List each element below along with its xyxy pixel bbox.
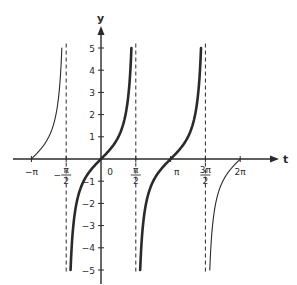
y-tick-label: 1 [89,132,95,142]
x-ticks: −π−π20π2π3π22π [25,156,246,186]
x-tick-label: 2π [235,167,247,177]
y-axis-arrow-icon [98,26,105,35]
x-tick-label-denominator: 2 [63,176,69,186]
y-tick-label: −4 [82,243,96,253]
x-tick-label-sign: − [53,170,61,180]
tangent-curve-branch [31,48,61,159]
x-tick-label-denominator: 2 [203,176,209,186]
y-tick-label: −3 [82,221,95,231]
y-tick-label: 3 [89,88,95,98]
tangent-function-chart: t y −5−4−3−2−112345 −π−π20π2π3π22π [0,0,297,285]
y-tick-label: −2 [82,199,95,209]
axes: t y [13,12,288,284]
x-axis-label: t [283,153,288,166]
x-tick-label-denominator: 2 [133,176,139,186]
y-axis-label: y [97,12,104,25]
y-tick-label: 4 [89,66,95,76]
x-tick-label: π [174,167,180,177]
x-tick-label-numerator: π [133,165,139,175]
x-tick-label: −π [25,167,39,177]
x-tick-label: 0 [107,167,113,177]
x-tick-label-numerator: π [63,165,69,175]
y-tick-label: 2 [89,110,95,120]
y-tick-label: −5 [82,266,95,276]
x-tick-label-numerator: 3π [200,165,212,175]
y-tick-label: 5 [89,44,95,54]
x-axis-arrow-icon [270,156,279,163]
